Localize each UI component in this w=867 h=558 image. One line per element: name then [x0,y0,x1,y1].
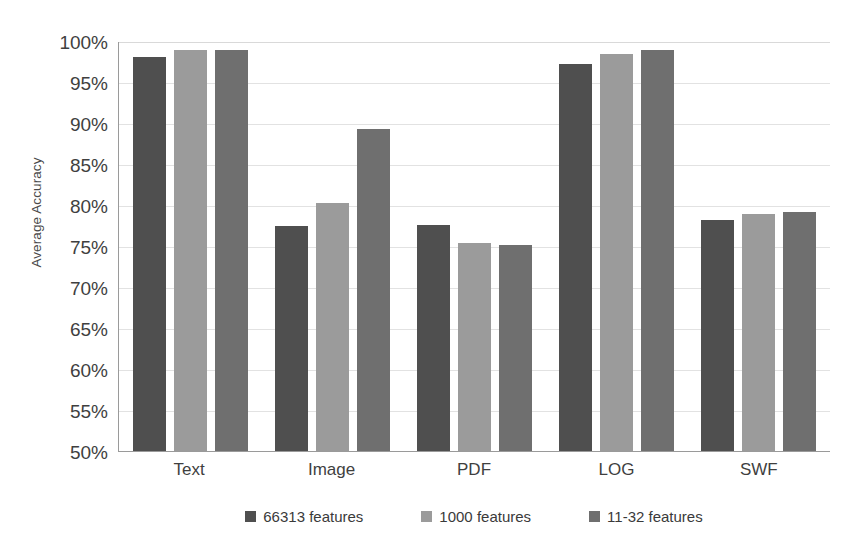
y-axis-tick: 55% [40,402,108,421]
bar[interactable] [275,226,308,451]
legend-label: 66313 features [263,508,363,525]
bar-group [261,42,403,451]
legend-item[interactable]: 66313 features [245,508,363,525]
legend-swatch-icon [589,511,600,522]
bar[interactable] [559,64,592,451]
bar[interactable] [417,225,450,451]
x-axis-tick: LOG [545,460,687,480]
y-axis-tick: 90% [40,115,108,134]
bar[interactable] [316,203,349,451]
y-axis-tick: 50% [40,443,108,462]
y-axis-tick: 65% [40,320,108,339]
y-axis-tick: 75% [40,238,108,257]
bar-group-bars [403,42,545,451]
bar-group [403,42,545,451]
y-axis-tick: 80% [40,197,108,216]
bar[interactable] [458,243,491,451]
y-axis-tick: 100% [40,33,108,52]
x-axis-tick: Image [260,460,402,480]
bar[interactable] [215,50,248,451]
bar-groups [119,42,830,451]
bar[interactable] [742,214,775,451]
bar[interactable] [783,212,816,451]
y-axis-tick: 85% [40,156,108,175]
legend-label: 1000 features [439,508,531,525]
bar-group [119,42,261,451]
bar[interactable] [701,220,734,451]
bar[interactable] [174,50,207,451]
x-axis-tick-labels: TextImagePDFLOGSWF [118,460,830,480]
legend-label: 11-32 features [607,508,703,525]
x-axis-tick: PDF [403,460,545,480]
bar-chart: Average Accuracy 100%95%90%85%80%75%70%6… [0,0,867,558]
y-axis-tick: 60% [40,361,108,380]
bar[interactable] [499,245,532,451]
bar[interactable] [357,129,390,451]
bar-group [688,42,830,451]
x-axis-tick: Text [118,460,260,480]
bar[interactable] [133,57,166,451]
x-axis-tick: SWF [688,460,830,480]
bar[interactable] [641,50,674,451]
y-axis-tick: 70% [40,279,108,298]
chart-legend: 66313 features1000 features11-32 feature… [118,508,830,525]
bar-group-bars [688,42,830,451]
bar-group-bars [119,42,261,451]
plot-area [118,42,830,452]
y-axis-tick: 95% [40,74,108,93]
legend-swatch-icon [421,511,432,522]
y-axis-tick-labels: 100%95%90%85%80%75%70%65%60%55%50% [40,30,108,454]
bar[interactable] [600,54,633,451]
legend-item[interactable]: 11-32 features [589,508,703,525]
legend-item[interactable]: 1000 features [421,508,531,525]
bar-group-bars [546,42,688,451]
bar-group [546,42,688,451]
legend-swatch-icon [245,511,256,522]
bar-group-bars [261,42,403,451]
